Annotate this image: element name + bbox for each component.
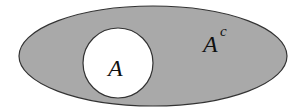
universe-ellipse bbox=[19, 6, 287, 106]
complement-label: A bbox=[201, 31, 218, 57]
set-a-label: A bbox=[106, 55, 123, 81]
complement-superscript: c bbox=[220, 23, 227, 39]
venn-diagram: A A c bbox=[0, 0, 303, 112]
